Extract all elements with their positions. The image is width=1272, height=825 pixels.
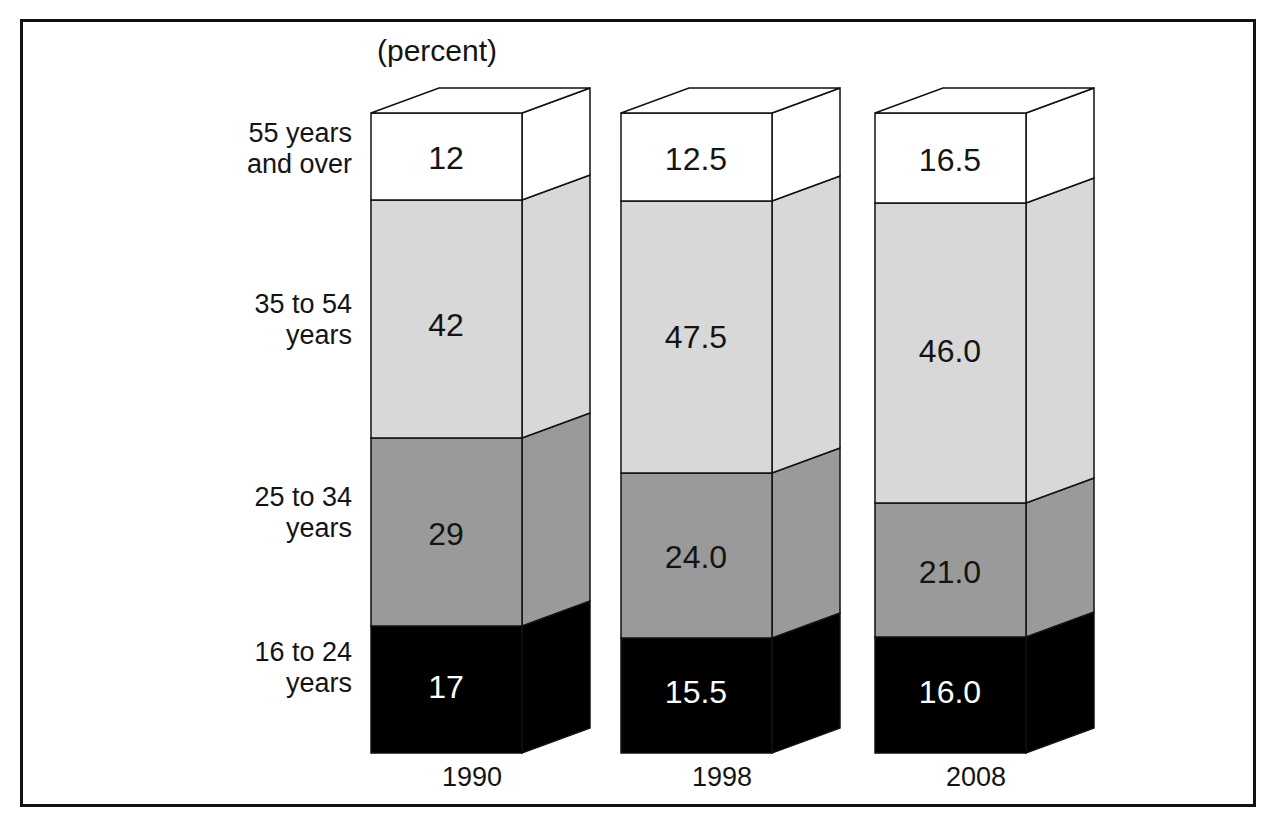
bar-1990-value-55over: 12 [428,140,464,176]
category-label-55-years-and-over: 55 yearsand over [152,118,352,179]
bar-1998-value-16to24: 15.5 [665,674,727,710]
bar-2008-value-25to34: 21.0 [919,554,981,590]
year-label-1990: 1990 [392,762,552,793]
bar-2008-side-35to54 [1026,178,1094,503]
bar-1990-side-16to24 [522,601,590,753]
bar-2008-side-25to34 [1026,478,1094,637]
bar-2008-value-16to24: 16.0 [919,674,981,710]
bar-1990-side-25to34 [522,413,590,626]
bar-1990-value-16to24: 17 [428,669,464,705]
bar-1990-value-35to54: 42 [428,307,464,343]
category-label-35-to-54-years: 35 to 54years [152,289,352,350]
bar-column-1998[interactable]: 12.5 47.5 24.0 15.5 [621,88,840,753]
year-label-2008: 2008 [896,762,1056,793]
bar-1998-value-55over: 12.5 [665,141,727,177]
category-label-16-to-24-years: 16 to 24years [152,637,352,698]
bar-1998-side-25to34 [772,448,840,638]
bar-2008-value-55over: 16.5 [919,142,981,178]
category-label-25-to-34-years: 25 to 34years [152,482,352,543]
chart-page: 12 42 29 17 12.5 47.5 24.0 15.5 [0,0,1272,825]
bar-1990-value-25to34: 29 [428,516,464,552]
unit-label: (percent) [377,34,497,68]
bar-column-1990[interactable]: 12 42 29 17 [371,88,590,753]
bar-1998-value-25to34: 24.0 [665,539,727,575]
bar-1990-side-35to54 [522,175,590,438]
bar-1998-side-35to54 [772,176,840,473]
year-label-1998: 1998 [642,762,802,793]
bar-1998-value-35to54: 47.5 [665,319,727,355]
bar-column-2008[interactable]: 16.5 46.0 21.0 16.0 [875,88,1094,753]
bar-2008-value-35to54: 46.0 [919,333,981,369]
